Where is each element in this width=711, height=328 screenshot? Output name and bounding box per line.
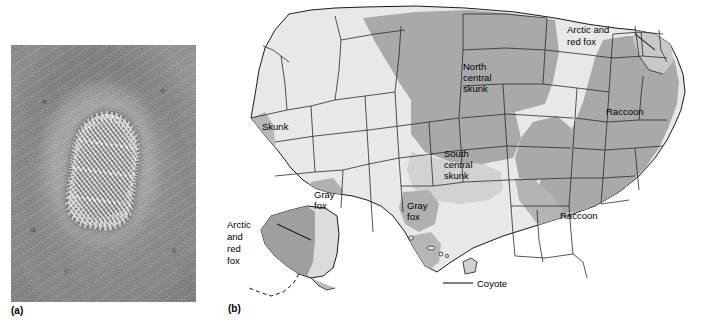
map-label-gray-fox-texas-line1: Gray xyxy=(407,200,428,211)
alaska-arctic-red-fox-shading xyxy=(261,206,315,276)
map-label-arctic-red-fox-northeast-line1: Arctic and xyxy=(567,24,609,35)
rabies-virion-particle xyxy=(65,111,141,231)
panel-a-label: (a) xyxy=(11,305,23,316)
us-rabies-reservoir-map: Skunk North central skunk South central … xyxy=(215,0,711,300)
map-alaska xyxy=(249,206,339,296)
map-label-south-central-skunk-line2: central xyxy=(444,159,473,170)
map-label-raccoon-northeast: Raccoon xyxy=(606,106,644,117)
map-label-arctic-red-fox-northeast-line2: red fox xyxy=(567,36,596,47)
figure-container: (a) xyxy=(0,0,711,328)
map-label-north-central-skunk-line3: skunk xyxy=(463,83,488,94)
rabies-virion-micrograph-image xyxy=(11,45,196,302)
map-label-raccoon-southeast: Raccoon xyxy=(560,210,598,221)
map-label-south-central-skunk-line3: skunk xyxy=(444,170,469,181)
map-label-south-central-skunk-line1: South xyxy=(444,148,469,159)
map-label-gray-fox-arizona-line1: Gray xyxy=(314,189,335,200)
map-label-arctic-red-fox-alaska-line1: Arctic xyxy=(227,219,251,230)
alaska-panhandle xyxy=(311,278,335,290)
map-label-arctic-red-fox-alaska-line4: fox xyxy=(227,255,240,266)
map-label-arctic-red-fox-alaska-line2: and xyxy=(227,231,243,242)
panel-b-map: Skunk North central skunk South central … xyxy=(215,0,711,300)
map-label-gray-fox-texas-line2: fox xyxy=(407,211,420,222)
map-label-north-central-skunk-line1: North xyxy=(463,61,486,72)
panel-b-label: (b) xyxy=(228,303,241,314)
map-label-skunk-west: Skunk xyxy=(262,121,289,132)
map-label-arctic-red-fox-alaska-line3: red xyxy=(227,243,241,254)
map-label-coyote: Coyote xyxy=(477,278,507,289)
map-label-gray-fox-arizona-line2: fox xyxy=(314,200,327,211)
aleutian-islands xyxy=(249,274,299,296)
map-label-north-central-skunk-line2: central xyxy=(463,72,492,83)
panel-a-micrograph xyxy=(11,45,196,302)
